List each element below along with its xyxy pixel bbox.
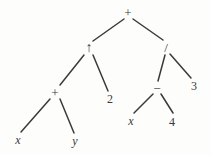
tree-node-operator-n0: +	[124, 6, 131, 19]
tree-edge	[133, 19, 163, 40]
tree-edge	[170, 54, 191, 78]
tree-edge	[93, 55, 108, 91]
tree-node-variable-n7: x	[15, 134, 20, 146]
tree-edge	[134, 94, 153, 113]
tree-node-number-n10: 4	[169, 116, 175, 128]
tree-edge	[161, 94, 173, 113]
tree-edge	[60, 55, 84, 85]
tree-node-operator-n3: +	[51, 86, 58, 99]
tree-node-variable-n8: y	[72, 135, 77, 147]
tree-edge	[93, 19, 124, 41]
expression-tree-figure: +↑/+2−3xyx4	[0, 0, 211, 155]
tree-node-operator-n2: /	[164, 41, 168, 54]
tree-edges-layer	[0, 0, 211, 155]
tree-node-operator-n5: −	[153, 82, 160, 95]
tree-edge	[21, 99, 50, 132]
tree-node-operator-n1: ↑	[86, 41, 93, 55]
tree-node-variable-n9: x	[128, 115, 133, 127]
tree-node-number-n4: 2	[107, 93, 113, 105]
tree-edge	[60, 99, 74, 133]
tree-edge	[158, 55, 165, 81]
tree-node-number-n6: 3	[191, 80, 197, 92]
